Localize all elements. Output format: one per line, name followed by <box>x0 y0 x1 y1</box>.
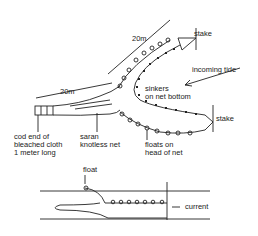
net-diagram: stake stake 20m 20m incoming tide sinker… <box>0 0 258 236</box>
stake-bottom-label: stake <box>216 115 234 123</box>
saran-label: saran knotless net <box>80 133 120 149</box>
net-lower-edge <box>53 110 120 115</box>
lower-wing-outer <box>120 112 205 133</box>
upper-wing-outer <box>118 40 170 88</box>
cod-end-label: cod end of bleached cloth 1 meter long <box>14 133 62 157</box>
floats-label: floats on head of net <box>145 141 183 157</box>
cod-end-box <box>35 106 53 115</box>
side-view <box>40 175 210 220</box>
length-lower-label: 20m <box>60 88 75 96</box>
dimension-upper <box>108 20 170 74</box>
inner-sinker-line <box>134 45 205 115</box>
length-upper-label: 20m <box>132 35 147 43</box>
sinkers-label: sinkers on net bottom <box>145 85 191 101</box>
stake-top-label: stake <box>194 30 212 38</box>
float-label: float <box>83 166 97 174</box>
incoming-tide-label: incoming tide <box>192 66 236 74</box>
current-label: current <box>185 203 208 211</box>
